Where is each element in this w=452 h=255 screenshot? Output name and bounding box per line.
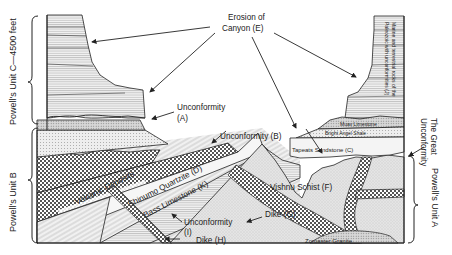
great-unconformity-line1: The Great bbox=[429, 118, 438, 156]
great-unconformity-line2: Unconformity bbox=[419, 118, 428, 167]
paleozoic-label-line1: Marine and terrestrial rocks of the bbox=[391, 22, 397, 97]
geologic-cross-section: Erosion of Canyon (E) Unconformity (A) U… bbox=[0, 0, 452, 255]
vishnu-label: Vishnu Schist (F) bbox=[270, 183, 332, 192]
erosion-label-line2: Canyon (E) bbox=[222, 24, 264, 33]
unconformity-i-line1: Unconformity bbox=[184, 218, 233, 227]
unconformity-i-line2: (I) bbox=[184, 228, 192, 237]
bracket-unit-a bbox=[408, 156, 418, 243]
dike-g-label: Dike (G) bbox=[265, 210, 296, 219]
left-cliff bbox=[37, 15, 168, 157]
zoroaster-label: Zoroaster Granite bbox=[305, 238, 353, 244]
unconformity-a-line2: (A) bbox=[177, 114, 188, 123]
erosion-label-line1: Erosion of bbox=[228, 13, 266, 22]
muav-label: Muav Limestone bbox=[340, 121, 377, 127]
unit-b-label: Powell's Unit B bbox=[8, 172, 18, 232]
unit-a-label: Powell's Unit A bbox=[430, 168, 440, 227]
unconformity-a-line1: Unconformity bbox=[177, 103, 226, 112]
tapeats-label: Tapeats Sandstone (C) bbox=[292, 147, 353, 153]
bright-angel-label: Bright Angel Shale bbox=[325, 130, 366, 136]
bracket-unit-c bbox=[28, 16, 38, 124]
unit-c-label: Powell's Unit C—4500 feet bbox=[8, 18, 18, 125]
dike-h-label: Dike (H) bbox=[196, 236, 226, 245]
unconformity-b-label: Unconformity (B) bbox=[220, 132, 282, 141]
paleozoic-label-line2: Paleozoic with unconformities (J) bbox=[384, 22, 390, 95]
